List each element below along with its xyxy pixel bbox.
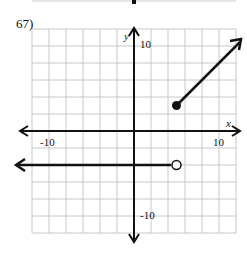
open-endpoint	[172, 161, 181, 170]
plot	[16, 39, 241, 171]
x-tick-10: 10	[213, 136, 225, 148]
y-axis-label: y	[123, 30, 129, 42]
y-tick-10: 10	[140, 38, 152, 50]
ray-upper	[177, 42, 241, 106]
closed-endpoint	[172, 101, 181, 110]
x-tick-neg10: -10	[40, 136, 55, 148]
graph: -10 10 10 -10 x y	[0, 0, 247, 255]
axes: -10 10 10 -10 x y	[20, 28, 240, 242]
x-axis-label: x	[225, 117, 231, 129]
previous-axis-tick	[132, 0, 136, 4]
y-tick-neg10: -10	[140, 209, 155, 221]
